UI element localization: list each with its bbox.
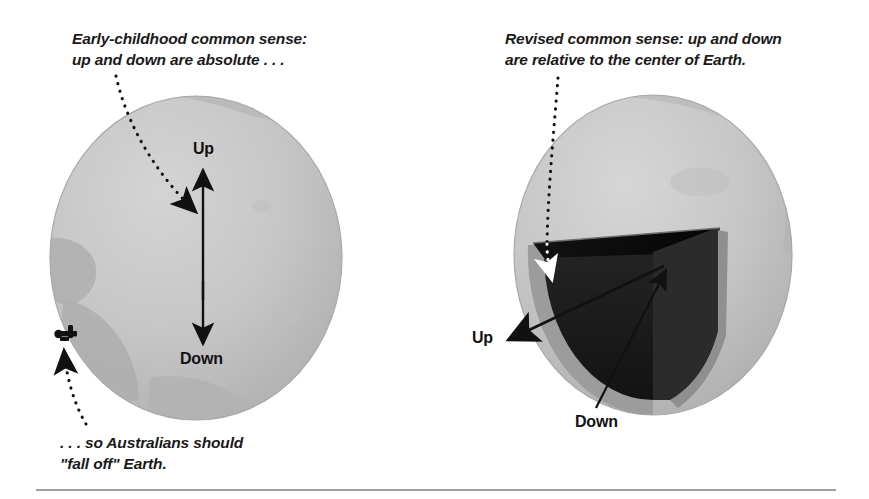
down-label-left: Down (180, 350, 223, 368)
down-label-right: Down (575, 413, 618, 431)
figure-canvas: Early-childhood common sense: up and dow… (0, 0, 869, 499)
caption-bottom: . . . so Australians should "fall off" E… (60, 432, 243, 474)
left-globe (44, 74, 368, 432)
right-globe (508, 78, 802, 415)
caption-right: Revised common sense: up and down are re… (505, 28, 782, 70)
illustration-layer (0, 0, 869, 499)
up-label-right: Up (472, 329, 493, 347)
up-label-left: Up (193, 140, 214, 158)
caption-left: Early-childhood common sense: up and dow… (72, 28, 307, 70)
